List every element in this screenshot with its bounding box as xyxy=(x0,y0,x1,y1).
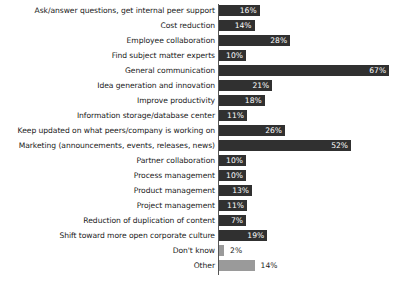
bar: 13% xyxy=(219,185,252,196)
bar-wrapper: 28% xyxy=(219,33,290,48)
bar: 11% xyxy=(219,200,247,211)
bar-value-label: 19% xyxy=(247,231,264,240)
category-label: Improve productivity xyxy=(1,96,215,105)
bar-wrapper: 14% xyxy=(219,18,255,33)
bar-value-label: 10% xyxy=(226,156,243,165)
bar-value-label: 16% xyxy=(240,6,257,15)
bar: 18% xyxy=(219,95,265,106)
category-label: Product management xyxy=(1,186,215,195)
bar-row: Improve productivity18% xyxy=(0,93,395,108)
category-label: Keep updated on what peers/company is wo… xyxy=(1,126,215,135)
bar-row: Marketing (announcements, events, releas… xyxy=(0,138,395,153)
bar-row: Product management13% xyxy=(0,183,395,198)
bar-row: Employee collaboration28% xyxy=(0,33,395,48)
bar-value-label: 2% xyxy=(230,246,242,255)
bar-value-label: 67% xyxy=(369,66,386,75)
category-label: Project management xyxy=(1,201,215,210)
bar-value-label: 18% xyxy=(245,96,262,105)
category-label: Partner collaboration xyxy=(1,156,215,165)
category-label: Cost reduction xyxy=(1,21,215,30)
bar-wrapper: 13% xyxy=(219,183,252,198)
category-label: Marketing (announcements, events, releas… xyxy=(1,141,215,150)
bar-wrapper: 14% xyxy=(219,258,255,273)
bar-row: Don't know2% xyxy=(0,243,395,258)
bar-value-label: 10% xyxy=(226,171,243,180)
bar-wrapper: 11% xyxy=(219,198,247,213)
bar-wrapper: 16% xyxy=(219,3,260,18)
bar-value-label: 10% xyxy=(226,51,243,60)
bar-wrapper: 2% xyxy=(219,243,224,258)
bar-row: Project management11% xyxy=(0,198,395,213)
bar: 11% xyxy=(219,110,247,121)
bar-wrapper: 10% xyxy=(219,168,246,183)
bar-wrapper: 10% xyxy=(219,48,246,63)
category-label: Information storage/database center xyxy=(1,111,215,120)
bar-wrapper: 21% xyxy=(219,78,272,93)
bar-wrapper: 18% xyxy=(219,93,265,108)
bar-value-outside-wrapper: 2% xyxy=(219,245,224,256)
bar-wrapper: 11% xyxy=(219,108,247,123)
bar-row: Information storage/database center11% xyxy=(0,108,395,123)
bar-row: Other14% xyxy=(0,258,395,273)
category-label: Shift toward more open corporate culture xyxy=(1,231,215,240)
bar: 14% xyxy=(219,20,255,31)
bar-wrapper: 7% xyxy=(219,213,246,228)
bar-value-label: 52% xyxy=(331,141,348,150)
bar-row: Partner collaboration10% xyxy=(0,153,395,168)
bar-value-label: 14% xyxy=(261,261,278,270)
bar: 52% xyxy=(219,140,351,151)
category-label: Employee collaboration xyxy=(1,36,215,45)
bar: 26% xyxy=(219,125,285,136)
category-label: Find subject matter experts xyxy=(1,51,215,60)
bar-row: Find subject matter experts10% xyxy=(0,48,395,63)
bar-row: Reduction of duplication of content7% xyxy=(0,213,395,228)
bar-wrapper: 10% xyxy=(219,153,246,168)
category-label: Reduction of duplication of content xyxy=(1,216,215,225)
bar-row: Process management10% xyxy=(0,168,395,183)
bar-row: Keep updated on what peers/company is wo… xyxy=(0,123,395,138)
category-label: Other xyxy=(1,261,215,270)
bar: 10% xyxy=(219,50,246,61)
bar-row: Cost reduction14% xyxy=(0,18,395,33)
category-label: General communication xyxy=(1,66,215,75)
bar-row: Idea generation and innovation21% xyxy=(0,78,395,93)
bar-value-label: 14% xyxy=(235,21,252,30)
bar-wrapper: 26% xyxy=(219,123,285,138)
bar: 21% xyxy=(219,80,272,91)
bar: 16% xyxy=(219,5,260,16)
plot-area: Ask/answer questions, get internal peer … xyxy=(0,0,395,281)
horizontal-bar-chart: Ask/answer questions, get internal peer … xyxy=(0,0,395,281)
bar xyxy=(219,245,224,256)
bar-value-label: 11% xyxy=(227,111,244,120)
category-label: Process management xyxy=(1,171,215,180)
bar-row: Ask/answer questions, get internal peer … xyxy=(0,3,395,18)
bar-value-label: 21% xyxy=(252,81,269,90)
bar: 19% xyxy=(219,230,267,241)
bar: 10% xyxy=(219,155,246,166)
bar-value-label: 13% xyxy=(232,186,249,195)
bar: 7% xyxy=(219,215,246,226)
bar: 67% xyxy=(219,65,389,76)
bar xyxy=(219,260,255,271)
bar-wrapper: 52% xyxy=(219,138,351,153)
bar-value-label: 28% xyxy=(270,36,287,45)
bar: 28% xyxy=(219,35,290,46)
category-label: Don't know xyxy=(1,246,215,255)
bar-value-label: 11% xyxy=(227,201,244,210)
bar-value-label: 26% xyxy=(265,126,282,135)
category-label: Idea generation and innovation xyxy=(1,81,215,90)
bar-value-outside-wrapper: 14% xyxy=(219,260,255,271)
bar-row: General communication67% xyxy=(0,63,395,78)
bar-row: Shift toward more open corporate culture… xyxy=(0,228,395,243)
bar-wrapper: 67% xyxy=(219,63,389,78)
bar: 10% xyxy=(219,170,246,181)
bar-value-label: 7% xyxy=(231,216,243,225)
category-label: Ask/answer questions, get internal peer … xyxy=(1,6,215,15)
bar-wrapper: 19% xyxy=(219,228,267,243)
